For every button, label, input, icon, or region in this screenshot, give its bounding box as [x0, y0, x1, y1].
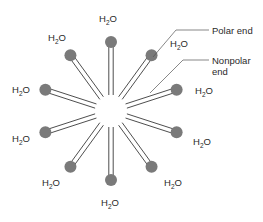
nonpolar-tail [127, 114, 174, 129]
polar-head [146, 49, 158, 61]
water-label: H2O [48, 32, 66, 45]
surfactant-molecule [39, 84, 96, 108]
nonpolar-tail [127, 93, 174, 108]
water-label: H2O [12, 84, 30, 97]
nonpolar-end-label-line1: Nonpolar [212, 55, 251, 66]
nonpolar-tail [50, 118, 97, 133]
nonpolar-tail [126, 118, 173, 133]
water-label: H2O [164, 177, 182, 190]
nonpolar-tail [119, 57, 148, 97]
water-label: H2O [42, 177, 60, 190]
nonpolar-tail [126, 89, 173, 104]
surfactant-molecule [39, 114, 96, 138]
surfactant-molecule [119, 123, 158, 173]
polar-head [64, 161, 76, 173]
surfactant-molecule [64, 49, 103, 99]
water-label: H2O [195, 85, 213, 98]
surfactant-molecule [64, 123, 103, 173]
nonpolar-tail [49, 93, 96, 108]
nonpolar-tail [119, 125, 148, 165]
callout-leader-lines [150, 30, 209, 93]
surfactant-molecule [105, 36, 117, 95]
surfactant-molecule [126, 84, 183, 108]
surfactant-molecule [105, 127, 117, 186]
water-label: H2O [170, 38, 188, 51]
polar-head [39, 126, 51, 138]
water-label: H2O [193, 136, 211, 149]
surfactant-molecules [39, 36, 182, 186]
polar-head [105, 174, 117, 186]
water-label: H2O [99, 13, 117, 26]
polar-head [64, 49, 76, 61]
water-label: H2O [101, 197, 119, 210]
nonpolar-tail [122, 60, 151, 100]
polar-head [105, 36, 117, 48]
nonpolar-tail [49, 114, 96, 129]
polar-head [171, 126, 183, 138]
nonpolar-tail [122, 123, 151, 163]
water-label: H2O [12, 133, 30, 146]
nonpolar-end-label-line2: end [212, 66, 228, 77]
nonpolar-tail [75, 125, 104, 165]
nonpolar-tail [75, 57, 104, 97]
polar-end-label: Polar end [212, 25, 253, 36]
surfactant-molecule [126, 114, 183, 138]
micelle-diagram: H2OH2OH2OH2OH2OH2OH2OH2OH2OH2O Polar end… [0, 0, 263, 222]
polar-head [171, 84, 183, 96]
surfactant-molecule [119, 49, 158, 99]
polar-head [39, 84, 51, 96]
polar-head [146, 161, 158, 173]
nonpolar-tail [50, 89, 97, 104]
nonpolar-tail [71, 123, 100, 163]
nonpolar-tail [71, 60, 100, 100]
